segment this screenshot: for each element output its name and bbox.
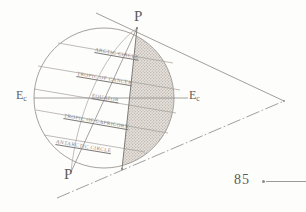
pole-label-north: P xyxy=(134,8,143,25)
ecliptic-label-left: Ec xyxy=(16,88,27,103)
page-rule-line xyxy=(266,181,306,182)
page-rule-dot xyxy=(262,180,265,183)
pole-label-south: P xyxy=(64,166,73,183)
ecliptic-label-left-subscript: c xyxy=(23,94,27,103)
ecliptic-label-right-subscript: c xyxy=(196,94,200,103)
pole-point-north xyxy=(136,27,138,29)
earth-cone-diagram xyxy=(0,0,306,212)
scanned-page: ARCTIC CIRCLE TROPIC OF CANCER EQUATOR T… xyxy=(0,0,306,212)
cone-apex-point xyxy=(283,100,285,102)
pole-point-south xyxy=(121,168,123,170)
ecliptic-label-right: Ec xyxy=(189,88,200,103)
page-number: 85 xyxy=(234,172,250,188)
